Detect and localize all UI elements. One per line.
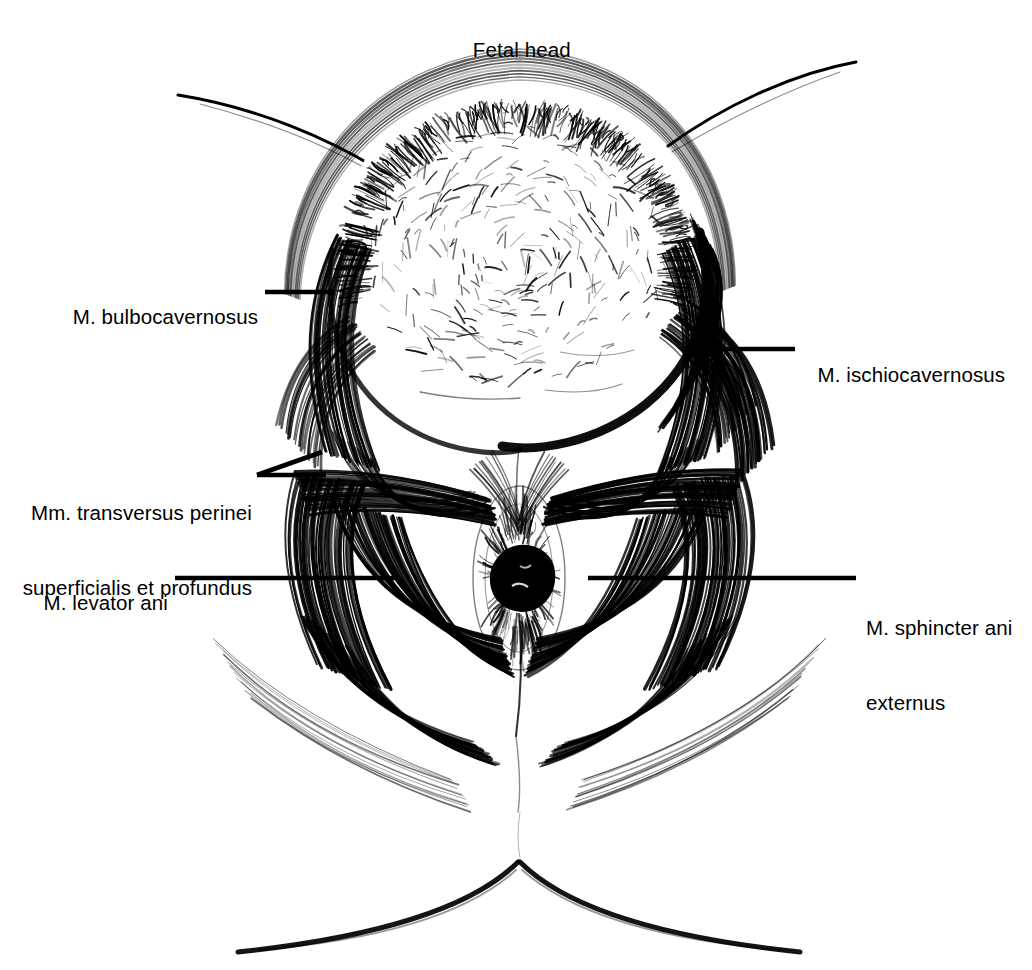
label-m-ischiocavernosus: M. ischiocavernosus bbox=[806, 337, 1032, 387]
label-m-levator-ani-text: M. levator ani bbox=[44, 591, 168, 614]
label-m-levator-ani: M. levator ani bbox=[8, 565, 168, 615]
anus-opening bbox=[491, 546, 554, 611]
label-m-bulbocavernosus-text: M. bulbocavernosus bbox=[73, 305, 258, 328]
anus bbox=[491, 546, 554, 611]
label-fetal-head: Fetal head bbox=[416, 12, 616, 62]
label-mm-transversus-perinei-line1: Mm. transversus perinei bbox=[2, 500, 252, 525]
label-m-sphincter-ani-externus-line1: M. sphincter ani bbox=[866, 615, 1032, 640]
label-m-ischiocavernosus-text: M. ischiocavernosus bbox=[818, 363, 1006, 386]
label-m-sphincter-ani-externus: M. sphincter ani externus bbox=[866, 565, 1032, 740]
label-fetal-head-text: Fetal head bbox=[473, 38, 571, 61]
label-m-sphincter-ani-externus-line2: externus bbox=[866, 690, 1032, 715]
label-m-bulbocavernosus: M. bulbocavernosus bbox=[18, 279, 258, 329]
